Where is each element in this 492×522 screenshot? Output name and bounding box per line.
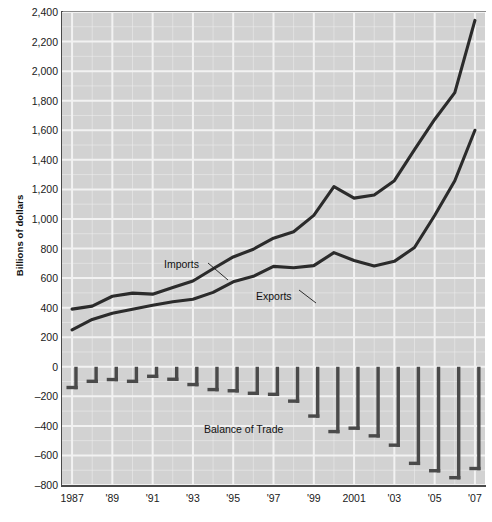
balance-bar-bottom — [187, 383, 198, 386]
balance-bar-bottom — [389, 443, 400, 446]
balance-bar-bottom — [429, 469, 440, 472]
balance-bar-bottom — [469, 467, 480, 470]
plot-area — [62, 12, 485, 485]
balance-bar-side — [397, 367, 400, 447]
y-axis-tick-label: 2,200 — [2, 37, 58, 47]
y-axis-tick-label: 1,000 — [2, 214, 58, 224]
y-axis-tick-label: 1,800 — [2, 96, 58, 106]
balance-bar-side — [356, 367, 359, 430]
balance-bar-bottom — [127, 380, 138, 383]
x-axis-tick-label: 1987 — [60, 492, 83, 504]
balance-bar-bottom — [228, 389, 239, 392]
y-axis-tick-label: 200 — [2, 332, 58, 342]
y-axis-tick-label: 2,400 — [2, 7, 58, 17]
balance-bar-side — [316, 367, 319, 418]
x-axis-tick-label: '05 — [428, 492, 442, 504]
balance-bar-bottom — [328, 430, 339, 433]
x-axis-tick-label: '99 — [307, 492, 321, 504]
exports-series-label: Exports — [256, 290, 292, 302]
y-axis-tick-label: 0 — [2, 362, 58, 372]
balance-bar-bottom — [147, 375, 158, 378]
y-axis-tick-label: 1,600 — [2, 125, 58, 135]
balance-bar-side — [215, 367, 218, 392]
y-axis-tick-label: 600 — [2, 273, 58, 283]
y-axis-tick-labels: 2,4002,2002,0001,8001,6001,4001,2001,000… — [0, 0, 58, 522]
y-axis-tick-label: –600 — [2, 450, 58, 460]
balance-bar-bottom — [449, 476, 460, 479]
balance-bar-bottom — [248, 392, 259, 395]
x-axis-tick-label: '95 — [226, 492, 240, 504]
balance-bar-side — [296, 367, 299, 403]
balance-bar-bottom — [207, 388, 218, 391]
balance-bar-bottom — [87, 380, 98, 383]
balance-bar-bottom — [409, 462, 420, 465]
balance-bar-side — [457, 367, 460, 480]
x-axis-tick-label: '97 — [267, 492, 281, 504]
balance-bar-bottom — [107, 378, 118, 381]
data-layer — [62, 12, 485, 485]
x-axis-tick-label: '03 — [388, 492, 402, 504]
balance-bar-side — [477, 367, 480, 470]
balance-bar-side — [417, 367, 420, 465]
y-axis-tick-label: 2,000 — [2, 66, 58, 76]
chart-figure: Billions of dollars 2,4002,2002,0001,800… — [0, 0, 492, 522]
x-axis-tick-label: '07 — [468, 492, 482, 504]
x-axis-tick-label: '91 — [146, 492, 160, 504]
balance-bar-bottom — [66, 386, 77, 389]
y-axis-tick-label: 1,400 — [2, 155, 58, 165]
y-axis-tick-label: –800 — [2, 480, 58, 490]
balance-of-trade-series-label: Balance of Trade — [204, 423, 283, 435]
x-axis-tick-label: 2001 — [342, 492, 365, 504]
balance-bar-bottom — [348, 426, 359, 429]
balance-bar-side — [235, 367, 238, 393]
y-axis-tick-label: 400 — [2, 303, 58, 313]
balance-bar-side — [276, 367, 279, 396]
x-axis-tick-label: '89 — [106, 492, 120, 504]
exports-leader — [299, 290, 316, 303]
imports-series-label: Imports — [164, 258, 199, 270]
y-axis-tick-label: –200 — [2, 391, 58, 401]
balance-bar-side — [256, 367, 259, 395]
x-axis-line — [61, 485, 486, 487]
balance-bar-bottom — [369, 434, 380, 437]
x-axis-tick-label: '93 — [186, 492, 200, 504]
balance-bar-side — [437, 367, 440, 473]
y-axis-tick-label: 800 — [2, 244, 58, 254]
balance-bar-bottom — [167, 378, 178, 381]
balance-bar-side — [336, 367, 339, 434]
balance-bar-bottom — [288, 399, 299, 402]
y-axis-tick-label: 1,200 — [2, 184, 58, 194]
balance-bar-side — [376, 367, 379, 438]
balance-bar-bottom — [268, 393, 279, 396]
y-axis-tick-label: –400 — [2, 421, 58, 431]
balance-bar-bottom — [308, 414, 319, 417]
